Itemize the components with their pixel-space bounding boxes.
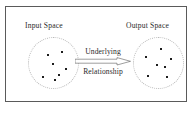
- input-space-label: Input Space: [25, 21, 63, 30]
- output-space-data-point: [145, 56, 147, 58]
- input-space-data-point: [54, 79, 56, 81]
- input-space-data-point: [65, 68, 67, 70]
- input-space-data-point: [42, 76, 44, 78]
- output-space-data-point: [156, 64, 158, 66]
- input-space-data-point: [47, 54, 49, 56]
- output-space-region: [133, 37, 184, 89]
- output-space-data-point: [160, 48, 162, 50]
- input-space-data-point: [58, 74, 60, 76]
- figure-canvas: Input Space Output Space Underlying Rela…: [0, 0, 193, 114]
- output-space-data-point: [166, 76, 168, 78]
- output-space-data-point: [170, 58, 172, 60]
- input-space-data-point: [52, 63, 54, 65]
- input-space-data-point: [61, 51, 63, 53]
- figure-frame: Input Space Output Space Underlying Rela…: [5, 6, 187, 102]
- long-arrow-right-icon: [75, 57, 131, 66]
- output-space-label: Output Space: [126, 21, 169, 30]
- relationship-label-line-two: Relationship: [72, 67, 134, 76]
- output-space-data-point: [147, 75, 149, 77]
- relationship-label-line-one: Underlying: [72, 47, 134, 56]
- underlying-relationship-group: Underlying Relationship: [72, 47, 134, 81]
- output-space-data-point: [164, 66, 166, 68]
